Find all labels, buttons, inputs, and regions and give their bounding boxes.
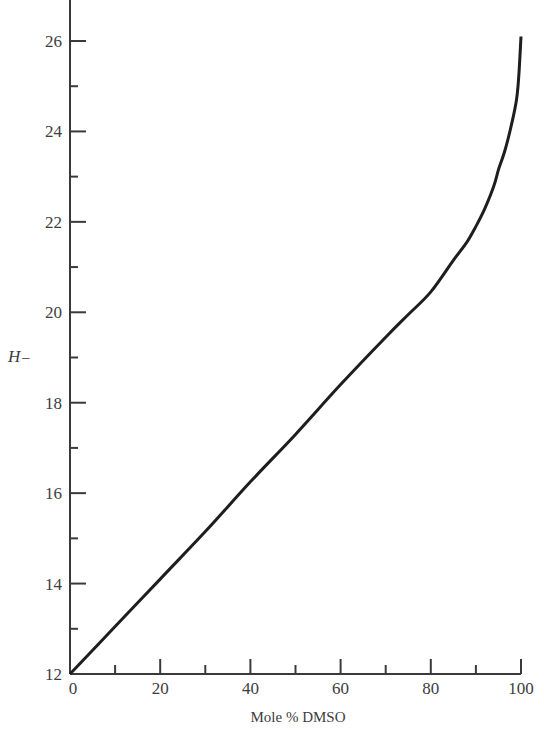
x-tick-label: 100 (508, 679, 534, 698)
y-tick-label: 12 (45, 665, 62, 684)
x-tick-label: 0 (69, 679, 78, 698)
y-tick-label: 14 (45, 575, 63, 594)
y-axis-ticks: 1214161820222426 (45, 32, 86, 684)
x-tick-label: 20 (152, 679, 169, 698)
y-tick-label: 26 (45, 32, 62, 51)
y-tick-label: 16 (45, 484, 62, 503)
x-tick-label: 40 (242, 679, 259, 698)
y-axis-title-subscript: − (21, 350, 30, 367)
y-axis-title-main: H (7, 347, 22, 366)
x-axis-ticks: 020406080100 (69, 659, 534, 698)
y-axis-title: H− (7, 347, 30, 367)
chart: 1214161820222426 020406080100 Mole % DMS… (0, 0, 544, 736)
axes (70, 0, 521, 674)
x-tick-label: 80 (422, 679, 439, 698)
data-line (70, 37, 521, 675)
y-tick-label: 18 (45, 394, 62, 413)
y-tick-label: 20 (45, 303, 62, 322)
y-tick-label: 22 (45, 213, 62, 232)
x-axis-title: Mole % DMSO (250, 709, 345, 725)
x-tick-label: 60 (332, 679, 349, 698)
y-tick-label: 24 (45, 122, 63, 141)
